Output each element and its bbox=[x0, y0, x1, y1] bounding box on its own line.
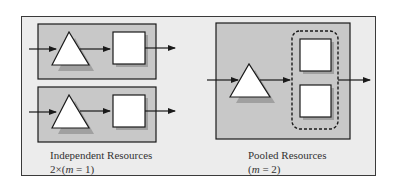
server-box-icon bbox=[113, 95, 145, 127]
subtitle-suffix: = 2) bbox=[260, 163, 281, 175]
independent-lane-1 bbox=[29, 24, 175, 79]
pooled-resources-label: Pooled Resources (m = 2) bbox=[248, 148, 327, 176]
independent-lane-2 bbox=[29, 87, 175, 142]
server-box-icon bbox=[113, 32, 145, 64]
pooled-subtitle: (m = 2) bbox=[248, 162, 327, 176]
independent-subtitle: 2×(m = 1) bbox=[50, 162, 152, 176]
subtitle-prefix: 2×( bbox=[50, 163, 65, 175]
subtitle-suffix: = 1) bbox=[73, 163, 94, 175]
independent-resources-label: Independent Resources 2×(m = 1) bbox=[50, 148, 152, 176]
pooled-system bbox=[207, 23, 370, 139]
pooled-title: Pooled Resources bbox=[248, 148, 327, 162]
server-box-icon-1 bbox=[300, 39, 331, 71]
subtitle-var: m bbox=[252, 163, 260, 175]
independent-title: Independent Resources bbox=[50, 148, 152, 162]
server-box-icon-2 bbox=[300, 85, 331, 117]
